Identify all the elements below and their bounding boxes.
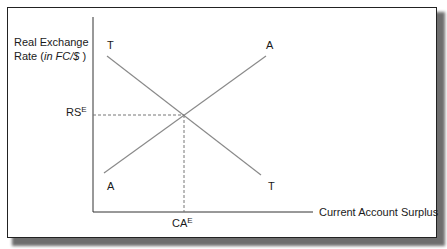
a-curve-bottom-label: A bbox=[107, 180, 114, 193]
y-axis-label: Real Exchange Rate (in FC/$ ) bbox=[14, 35, 89, 63]
rs-equilibrium-label: RSE bbox=[66, 106, 87, 120]
t-curve-bottom-label: T bbox=[268, 180, 275, 193]
a-curve-top-label: A bbox=[266, 39, 273, 52]
t-curve-top-label: T bbox=[107, 39, 114, 52]
ca-equilibrium-label: CAE bbox=[172, 217, 193, 231]
y-axis-label-line1: Real Exchange bbox=[14, 35, 89, 49]
x-axis-label: Current Account Surplus bbox=[319, 206, 438, 219]
y-axis-label-line2: Rate (in FC/$ ) bbox=[14, 49, 89, 63]
